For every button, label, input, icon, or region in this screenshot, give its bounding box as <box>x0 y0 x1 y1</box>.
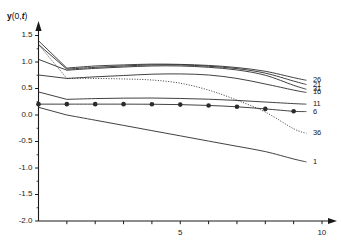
axes <box>35 21 337 224</box>
series-6 <box>36 102 306 114</box>
series-6-marker <box>206 103 211 108</box>
series-16 <box>39 74 307 93</box>
series-6-marker <box>178 102 183 107</box>
series-6-marker <box>36 102 41 107</box>
y-tick-label-4: 0.0 <box>21 110 32 119</box>
series-26-head <box>39 41 67 68</box>
series-6-marker <box>121 102 126 107</box>
series-16-head <box>39 75 67 78</box>
series-6-marker <box>291 109 296 114</box>
series-21-head <box>39 45 67 70</box>
plot-area <box>0 0 341 242</box>
series-36-head <box>39 45 67 79</box>
series-31-tail <box>67 66 307 89</box>
series-6-marker <box>235 104 240 109</box>
chart-figure: y(0,t) -2.0-1.5-1.0-0.50.00.51.01.5510 2… <box>0 0 341 242</box>
curve-label-36: 36 <box>313 128 321 137</box>
x-tick-label-10: 10 <box>317 228 326 237</box>
y-tick-label-1: -1.5 <box>19 189 33 198</box>
series-layer <box>36 41 306 162</box>
y-tick-label-6: 1.0 <box>21 57 32 66</box>
curve-label-1: 1 <box>313 157 317 166</box>
series-11 <box>39 92 307 104</box>
series-36-tail <box>67 78 307 133</box>
y-tick-label-0: -2.0 <box>19 216 33 225</box>
x-tick-label-5: 5 <box>178 228 182 237</box>
series-36 <box>39 45 307 134</box>
series-6-marker <box>150 102 155 107</box>
y-tick-label-7: 1.5 <box>21 30 32 39</box>
curve-label-16: 16 <box>313 87 321 96</box>
series-6-marker <box>65 102 70 107</box>
y-tick-label-2: -1.0 <box>19 163 33 172</box>
series-1 <box>39 107 307 162</box>
curve-label-6: 6 <box>313 107 317 116</box>
y-tick-label-3: -0.5 <box>19 136 33 145</box>
series-1-head <box>39 107 67 115</box>
y-tick-label-5: 0.5 <box>21 83 32 92</box>
series-11-tail <box>67 98 307 104</box>
series-1-tail <box>67 115 307 162</box>
series-6-marker <box>93 102 98 107</box>
series-6-tail <box>67 104 307 111</box>
series-26 <box>39 41 307 80</box>
series-21 <box>39 45 307 85</box>
series-6-marker <box>263 107 268 112</box>
series-11-head <box>39 92 67 99</box>
